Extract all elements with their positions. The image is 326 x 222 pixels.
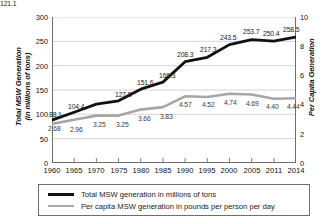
y-left-tick-150: 150 — [26, 86, 48, 95]
legend-label-total-msw: Total MSW generation in millions of tons — [81, 190, 216, 199]
data-label-total-1980: 151.6 — [137, 79, 153, 86]
data-label-percapita-1975: 3.25 — [116, 121, 129, 128]
y-left-tick-100: 100 — [26, 110, 48, 119]
msw-generation-chart: Total MSW Generation (in millions of ton… — [0, 0, 326, 222]
data-label-percapita-1980: 3.66 — [138, 115, 151, 122]
y-right-tick-10: 10 — [300, 13, 322, 22]
data-label-total-2000: 243.5 — [220, 34, 236, 41]
data-label-percapita-1965: 2.96 — [70, 126, 83, 133]
data-label-percapita-2005: 4.69 — [246, 100, 259, 107]
data-label-percapita-1970: 3.25 — [93, 121, 106, 128]
y-left-tick-50: 50 — [26, 135, 48, 144]
legend-swatch-black-line-icon — [48, 193, 74, 196]
data-label-total-2014: 258.5 — [283, 26, 299, 33]
data-label-percapita-2014: 4.44 — [287, 103, 300, 110]
data-label-total-1985: 166.3 — [159, 72, 175, 79]
y-left-tick-200: 200 — [26, 62, 48, 71]
data-label-percapita-2011: 4.40 — [266, 103, 279, 110]
data-label-percapita-1960: 2.68 — [48, 125, 61, 132]
legend-label-per-capita: Per capita MSW generation in pounds per … — [81, 202, 275, 211]
legend-item-per-capita: Per capita MSW generation in pounds per … — [39, 200, 309, 212]
data-label-total-2005: 253.7 — [243, 28, 259, 35]
y-right-tick-2: 2 — [300, 130, 322, 139]
plot-area — [52, 17, 296, 163]
data-label-total-1975: 127.8 — [115, 91, 131, 98]
y-right-tick-8: 8 — [300, 42, 322, 51]
y-right-tick-4: 4 — [300, 100, 322, 109]
data-label-total-1995: 217.3 — [200, 46, 216, 53]
data-label-total-1965: 104.4 — [68, 103, 84, 110]
data-label-total-2011: 250.4 — [263, 30, 279, 37]
legend-item-total-msw: Total MSW generation in millions of tons — [39, 188, 309, 200]
y-left-tick-250: 250 — [26, 37, 48, 46]
y-left-tick-300: 300 — [26, 13, 48, 22]
data-label-total-1970: 121.1 — [0, 0, 16, 7]
legend-swatch-gray-line-icon — [48, 205, 74, 207]
data-label-percapita-1985: 3.83 — [160, 113, 173, 120]
data-label-percapita-2000: 4.74 — [224, 99, 237, 106]
x-tick-2014: 2014 — [281, 166, 311, 175]
series-line-per-capita — [52, 94, 296, 124]
chart-legend: Total MSW generation in millions of tons… — [38, 184, 310, 216]
y-right-tick-6: 6 — [300, 71, 322, 80]
data-label-percapita-1995: 4.52 — [202, 101, 215, 108]
data-label-total-1960: 88.1 — [49, 111, 62, 118]
data-label-percapita-1990: 4.57 — [179, 101, 192, 108]
y-axis-left-title-line1: Total MSW Generation — [14, 47, 23, 126]
data-label-total-1990: 208.3 — [177, 51, 193, 58]
